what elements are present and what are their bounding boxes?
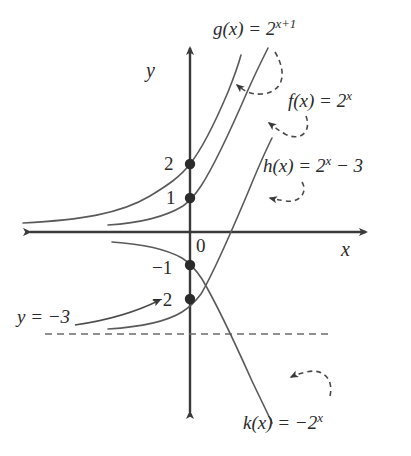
h-label-text: h(x) = 2 <box>263 155 325 176</box>
k-callout-arrow <box>291 371 331 396</box>
f-callout-arrow <box>269 116 308 137</box>
g-curve <box>23 55 241 223</box>
tick-label-2: 2 <box>164 154 174 173</box>
asymptote-callout-arrow <box>75 300 160 325</box>
asymptote-label: y = −3 <box>17 307 70 326</box>
graph-canvas <box>0 0 411 456</box>
point-0-2 <box>185 159 195 169</box>
h-label-suffix: − 3 <box>331 155 363 176</box>
y-axis-label: y <box>146 60 155 80</box>
tick-label-1: 1 <box>166 188 176 207</box>
h-callout-arrow <box>270 182 304 201</box>
k-label-text: k(x) = −2 <box>243 412 317 433</box>
tick-label-0: 0 <box>196 236 206 255</box>
point-0-minus-2 <box>185 294 195 304</box>
h-function-label: h(x) = 2x − 3 <box>263 155 363 175</box>
k-function-label: k(x) = −2x <box>243 412 323 432</box>
tick-label-minus-1: −1 <box>152 258 172 277</box>
point-0-minus-1 <box>185 260 195 270</box>
g-callout-arrow <box>237 52 282 94</box>
point-0-1 <box>185 193 195 203</box>
g-function-label: g(x) = 2x+1 <box>213 18 296 38</box>
tick-label-minus-2: −2 <box>152 290 172 309</box>
f-function-label: f(x) = 2x <box>288 90 352 110</box>
k-label-exponent: x <box>317 410 323 425</box>
f-label-text: f(x) = 2 <box>288 90 346 111</box>
f-label-exponent: x <box>346 88 352 103</box>
g-label-text: g(x) = 2 <box>213 18 275 39</box>
x-axis-label: x <box>341 239 350 259</box>
g-label-exponent: x+1 <box>275 16 296 31</box>
